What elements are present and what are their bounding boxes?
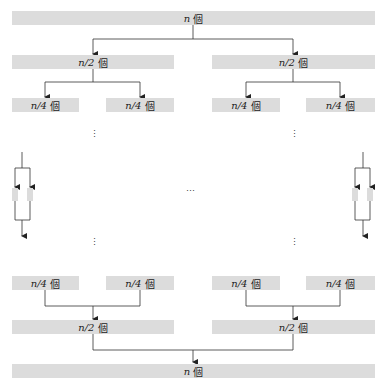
quarter-unit: 個 (251, 98, 261, 113)
quarter-unit: 個 (345, 276, 355, 291)
bottom-count: n (184, 366, 190, 377)
quarter-count: n/4 (326, 278, 342, 289)
split-quarter-box-2: n/4 個 (106, 98, 174, 112)
quarter-unit: 個 (145, 98, 155, 113)
merge-quarter-box-4: n/4 個 (306, 276, 375, 290)
mini-block-left-a (12, 188, 18, 201)
quarter-count: n/4 (125, 278, 141, 289)
top-array-box: n 個 (12, 11, 375, 25)
quarter-unit: 個 (345, 98, 355, 113)
merge-half-left-box: n/2 個 (12, 320, 174, 334)
quarter-unit: 個 (251, 276, 261, 291)
quarter-count: n/4 (326, 100, 342, 111)
half-count: n/2 (279, 322, 295, 333)
quarter-count: n/4 (31, 100, 47, 111)
merge-quarter-box-2: n/4 個 (106, 276, 174, 290)
top-unit: 個 (193, 11, 203, 26)
half-unit: 個 (298, 55, 308, 70)
half-unit: 個 (98, 55, 108, 70)
split-half-right-box: n/2 個 (212, 55, 375, 69)
split-half-left-box: n/2 個 (12, 55, 174, 69)
split-quarter-box-1: n/4 個 (12, 98, 79, 112)
vertical-ellipsis-lower-left: ⋮ (90, 241, 96, 244)
bottom-array-box: n 個 (12, 364, 375, 378)
quarter-count: n/4 (31, 278, 47, 289)
quarter-unit: 個 (50, 98, 60, 113)
half-count: n/2 (78, 57, 94, 68)
quarter-count: n/4 (231, 278, 247, 289)
quarter-count: n/4 (231, 100, 247, 111)
half-unit: 個 (298, 320, 308, 335)
vertical-ellipsis-lower-right: ⋮ (290, 241, 296, 244)
merge-quarter-box-1: n/4 個 (12, 276, 79, 290)
half-count: n/2 (279, 57, 295, 68)
quarter-unit: 個 (50, 276, 60, 291)
merge-quarter-box-3: n/4 個 (212, 276, 280, 290)
half-unit: 個 (98, 320, 108, 335)
bottom-unit: 個 (193, 364, 203, 379)
vertical-ellipsis-upper-right: ⋮ (290, 133, 296, 136)
mini-block-right-b (367, 188, 373, 201)
mini-block-left-b (27, 188, 33, 201)
split-quarter-box-3: n/4 個 (212, 98, 280, 112)
merge-half-right-box: n/2 個 (212, 320, 375, 334)
half-count: n/2 (78, 322, 94, 333)
horizontal-ellipsis: ⋯ (186, 186, 195, 196)
split-quarter-box-4: n/4 個 (306, 98, 375, 112)
quarter-count: n/4 (125, 100, 141, 111)
top-count: n (184, 13, 190, 24)
quarter-unit: 個 (145, 276, 155, 291)
vertical-ellipsis-upper-left: ⋮ (90, 133, 96, 136)
mini-block-right-a (352, 188, 358, 201)
